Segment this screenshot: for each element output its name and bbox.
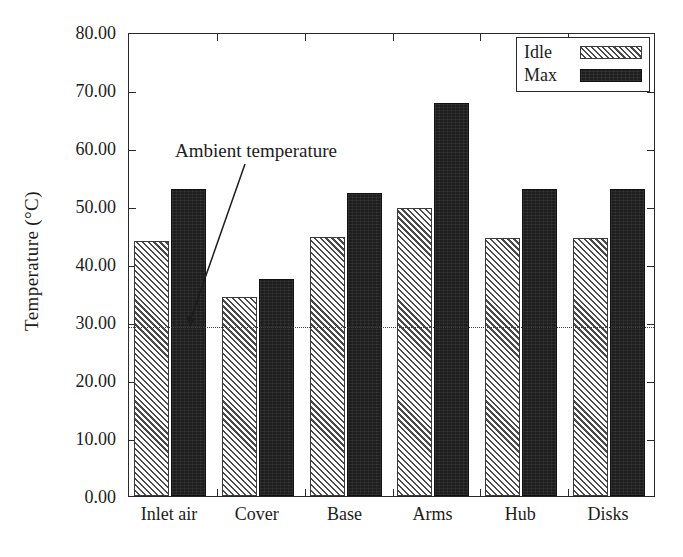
plot-inner	[129, 34, 654, 496]
plot-area	[128, 33, 655, 497]
y-tick-label: 70.00	[0, 82, 116, 100]
x-tick-mark	[568, 489, 569, 496]
bar-max-arms	[434, 103, 469, 496]
chart-figure: Temperature (°C) 0.0010.0020.0030.0040.0…	[0, 0, 683, 557]
x-tick-mark	[305, 489, 306, 496]
legend-label-idle: Idle	[524, 42, 580, 63]
y-tick-label: 60.00	[0, 140, 116, 158]
y-tick-label: 40.00	[0, 256, 116, 274]
x-tick-label-arms: Arms	[412, 504, 452, 525]
legend-item-max: Max	[524, 64, 643, 87]
y-tick-mark	[129, 208, 136, 209]
x-tick-mark	[217, 489, 218, 496]
chart-legend: Idle Max	[516, 37, 650, 92]
bar-idle-hub	[485, 238, 520, 496]
x-tick-label-cover: Cover	[235, 504, 279, 525]
x-tick-mark	[393, 489, 394, 496]
y-tick-label: 30.00	[0, 314, 116, 332]
bar-max-hub	[522, 189, 557, 496]
y-tick-label: 10.00	[0, 430, 116, 448]
x-tick-mark-top	[393, 34, 394, 41]
legend-label-max: Max	[524, 65, 580, 86]
bar-idle-arms	[397, 208, 432, 496]
bar-max-inlet-air	[171, 189, 206, 496]
y-tick-label: 0.00	[0, 488, 116, 506]
bar-max-disks	[610, 189, 645, 496]
bar-max-cover	[259, 279, 294, 497]
x-tick-mark-top	[480, 34, 481, 41]
x-tick-mark-top	[217, 34, 218, 41]
legend-swatch-idle	[580, 46, 642, 59]
ambient-temperature-annotation-label: Ambient temperature	[175, 140, 337, 162]
y-tick-mark-right	[647, 440, 654, 441]
y-tick-mark	[129, 92, 136, 93]
x-tick-label-disks: Disks	[588, 504, 629, 525]
x-tick-label-inlet-air: Inlet air	[141, 504, 197, 525]
y-tick-label: 20.00	[0, 372, 116, 390]
y-tick-label: 50.00	[0, 198, 116, 216]
x-tick-label-base: Base	[327, 504, 362, 525]
y-tick-mark	[129, 150, 136, 151]
bar-idle-base	[310, 237, 345, 496]
bar-max-base	[347, 193, 382, 496]
y-tick-label: 80.00	[0, 24, 116, 42]
bar-idle-inlet-air	[134, 241, 169, 496]
y-tick-mark-right	[647, 266, 654, 267]
legend-swatch-max	[580, 69, 642, 82]
x-tick-mark-top	[305, 34, 306, 41]
y-tick-mark-right	[647, 92, 654, 93]
x-tick-label-hub: Hub	[505, 504, 536, 525]
y-tick-mark-right	[647, 208, 654, 209]
bar-idle-disks	[573, 238, 608, 496]
y-tick-mark-right	[647, 382, 654, 383]
legend-item-idle: Idle	[524, 41, 643, 64]
y-tick-mark-right	[647, 150, 654, 151]
y-tick-mark-right	[647, 324, 654, 325]
x-tick-mark	[480, 489, 481, 496]
ambient-temperature-reference-line	[129, 327, 654, 328]
